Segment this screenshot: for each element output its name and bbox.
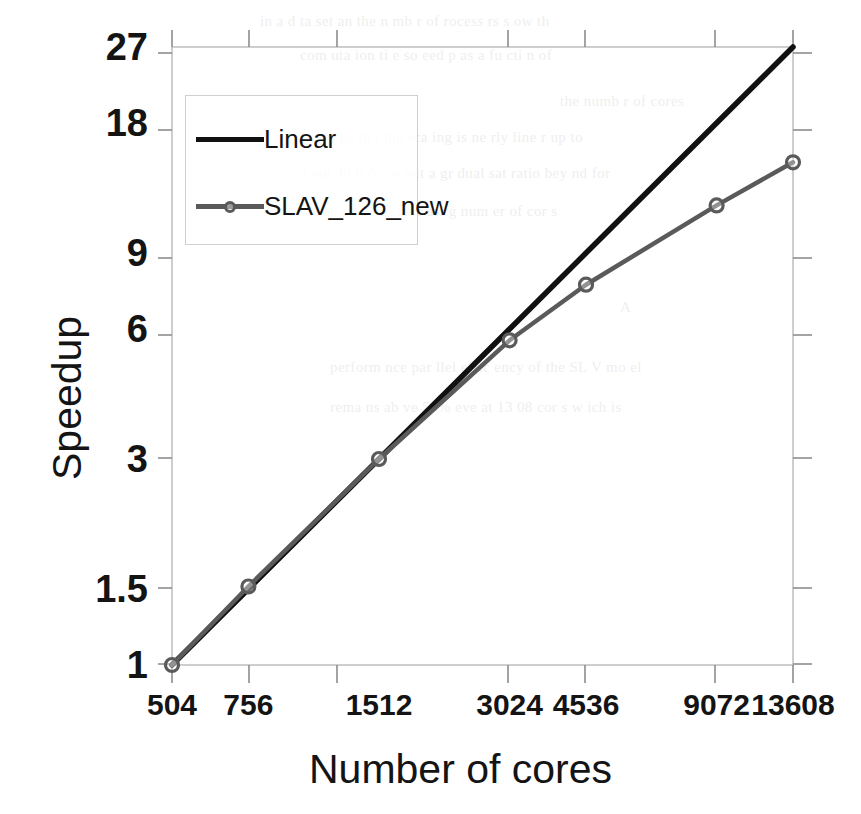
x-tick-label: 13608 xyxy=(751,688,834,722)
y-tick-label: 9 xyxy=(30,232,148,275)
x-tick-label: 504 xyxy=(147,688,197,722)
data-point-marker xyxy=(242,580,255,593)
legend-label-slav: SLAV_126_new xyxy=(264,191,449,222)
data-point-marker xyxy=(787,156,800,169)
data-point-marker xyxy=(373,453,386,466)
x-tick-marks xyxy=(172,665,793,683)
legend-item-slav: SLAV_126_new xyxy=(196,191,449,222)
y-tick-label: 18 xyxy=(30,102,148,145)
x-tick-label: 756 xyxy=(223,688,273,722)
y-tick-marks xyxy=(158,53,172,664)
legend-line-linear xyxy=(196,137,264,142)
x-tick-label: 4536 xyxy=(553,688,620,722)
legend-item-linear: Linear xyxy=(196,124,336,155)
legend-label-linear: Linear xyxy=(264,124,336,155)
chart-legend: Linear SLAV_126_new xyxy=(185,95,418,245)
y-tick-label: 1.5 xyxy=(30,567,148,610)
speedup-scaling-chart: in a d ta set an the n mb r of rocess rs… xyxy=(0,0,861,814)
y-tick-label: 27 xyxy=(30,26,148,69)
legend-marker-circle-slav xyxy=(224,201,236,213)
x-tick-label: 9072 xyxy=(683,688,750,722)
x-tick-marks-top xyxy=(172,30,793,47)
x-tick-label: 3024 xyxy=(476,688,543,722)
data-point-marker xyxy=(503,334,516,347)
legend-swatch-slav xyxy=(196,198,264,216)
y-axis-title: Speedup xyxy=(44,316,91,480)
data-point-marker xyxy=(580,278,593,291)
data-point-marker xyxy=(710,199,723,212)
y-tick-marks-right xyxy=(793,53,812,664)
x-axis-title: Number of cores xyxy=(30,746,861,793)
data-point-marker xyxy=(166,659,179,672)
legend-swatch-linear xyxy=(196,131,264,149)
x-tick-label: 1512 xyxy=(346,688,413,722)
y-tick-label: 1 xyxy=(30,644,148,687)
